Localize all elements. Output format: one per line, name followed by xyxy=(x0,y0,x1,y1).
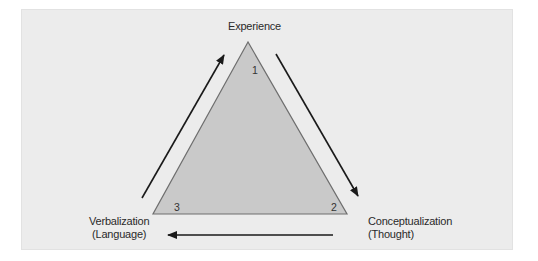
node-label-verbalization: Verbalization (Language) xyxy=(89,215,149,241)
cycle-diagram xyxy=(0,0,538,261)
node-label-experience: Experience xyxy=(228,20,281,33)
experience-text: Experience xyxy=(228,20,281,32)
corner-number-1: 1 xyxy=(252,64,258,76)
conceptualization-text: Conceptualization xyxy=(368,215,452,228)
node-label-conceptualization: Conceptualization (Thought) xyxy=(368,215,452,241)
thought-text: (Thought) xyxy=(368,228,452,241)
corner-number-2: 2 xyxy=(331,201,337,213)
language-text: (Language) xyxy=(89,228,149,241)
verbalization-text: Verbalization xyxy=(89,215,149,228)
corner-number-3: 3 xyxy=(174,201,180,213)
